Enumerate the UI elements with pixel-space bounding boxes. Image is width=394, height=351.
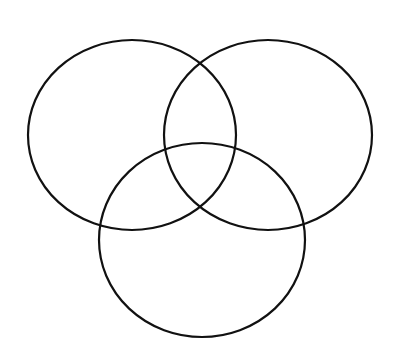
circle-bottom xyxy=(99,143,305,337)
venn-diagram xyxy=(0,0,394,351)
circle-top-left xyxy=(28,40,236,230)
circle-top-right xyxy=(164,40,372,230)
